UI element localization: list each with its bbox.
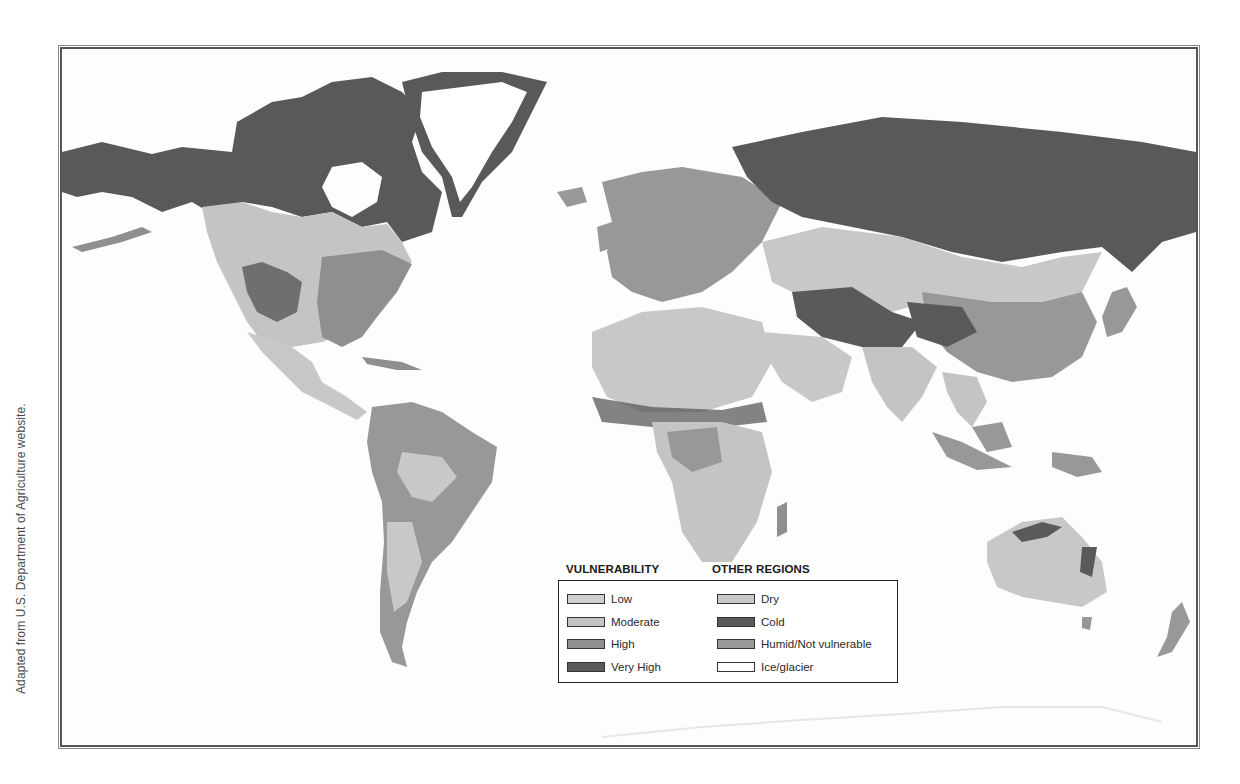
region-new-zealand — [1157, 602, 1190, 657]
legend-header-other: OTHER REGIONS — [712, 563, 810, 575]
region-india — [862, 347, 937, 422]
legend-label: High — [611, 638, 635, 650]
legend-item-cold: Cold — [717, 611, 872, 634]
legend-other-column: Dry Cold Humid/Not vulnerable Ice/glacie… — [717, 588, 872, 678]
swatch-ice — [717, 662, 755, 672]
swatch-low — [567, 594, 605, 604]
region-madagascar — [777, 502, 787, 537]
legend-vulnerability-column: Low Moderate High Very High — [567, 588, 661, 678]
region-mexico — [247, 332, 367, 420]
legend-item-ice: Ice/glacier — [717, 656, 872, 679]
swatch-high — [567, 639, 605, 649]
legend-item-very-high: Very High — [567, 656, 661, 679]
legend-headers: VULNERABILITY OTHER REGIONS — [566, 563, 906, 579]
legend-label: Humid/Not vulnerable — [761, 638, 872, 650]
legend-header-vulnerability: VULNERABILITY — [566, 563, 659, 575]
aleutians — [72, 227, 152, 252]
region-south-america — [367, 402, 497, 667]
legend-label: Cold — [761, 616, 785, 628]
legend-label: Moderate — [611, 616, 660, 628]
legend-item-low: Low — [567, 588, 661, 611]
legend-item-moderate: Moderate — [567, 611, 661, 634]
region-tasmania — [1082, 617, 1092, 630]
legend-label: Ice/glacier — [761, 661, 813, 673]
source-credit: Adapted from U.S. Department of Agricult… — [14, 403, 28, 694]
region-eastern-us-humid — [317, 250, 412, 347]
swatch-dry — [717, 594, 755, 604]
legend-item-humid: Humid/Not vulnerable — [717, 633, 872, 656]
region-se-asia — [942, 372, 987, 427]
legend-label: Low — [611, 593, 632, 605]
region-arabia-dry — [762, 332, 852, 402]
region-africa-north-dry — [592, 307, 772, 412]
iceland — [557, 187, 587, 207]
antarctica-edge — [602, 707, 1162, 737]
swatch-moderate — [567, 617, 605, 627]
legend-label: Very High — [611, 661, 661, 673]
region-europe — [602, 167, 782, 302]
legend-label: Dry — [761, 593, 779, 605]
caribbean — [362, 357, 422, 370]
region-indonesia — [932, 422, 1102, 477]
region-uk — [597, 222, 614, 252]
swatch-very-high — [567, 662, 605, 672]
swatch-humid — [717, 639, 755, 649]
legend-item-dry: Dry — [717, 588, 872, 611]
japan — [1102, 287, 1137, 337]
swatch-cold — [717, 617, 755, 627]
map-legend: Low Moderate High Very High Dry Cold Hum… — [558, 580, 898, 683]
legend-item-high: High — [567, 633, 661, 656]
